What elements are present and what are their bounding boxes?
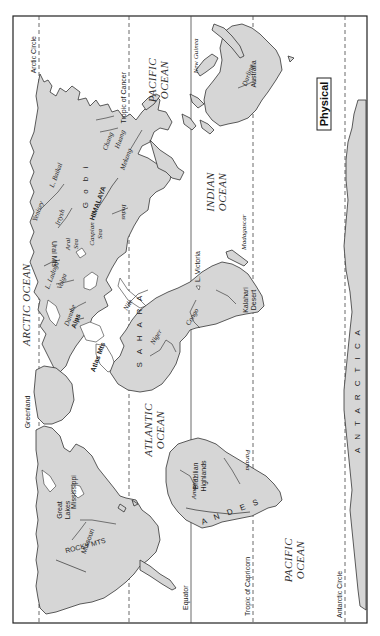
madagascar-label: Madagascar <box>240 214 248 251</box>
antarctica-label: A N T A R C T I C A <box>353 327 362 453</box>
java <box>200 120 214 134</box>
antarctic-circle-label: Antarctic Circle <box>336 571 343 618</box>
equator-label: Equator <box>182 585 190 610</box>
black-sea <box>80 322 104 342</box>
arctic-ocean-label: ARCTIC OCEAN <box>20 263 32 347</box>
pacific-ocean-north-label-2: OCEAN <box>158 61 170 100</box>
physical-world-map: Arctic Circle Tropic of Cancer Equator T… <box>0 0 380 636</box>
tropic-of-cancer-label: Tropic of Cancer <box>120 71 128 123</box>
indonesia-islands <box>182 114 196 130</box>
pacific-ocean-south-label-1: PACIFIC <box>282 538 294 583</box>
greenland <box>34 366 74 424</box>
tropic-of-capricorn-label: Tropic of Capricorn <box>244 557 252 616</box>
greenland-label: Greenland <box>24 396 31 429</box>
lake-victoria-label: L. Victoria <box>194 251 201 282</box>
aral-sea-label-1: Aral <box>64 238 72 252</box>
parana-label: Parana <box>244 449 252 472</box>
gobi-label: G o b i <box>81 164 90 209</box>
mississippi-label: Mississippi <box>70 475 78 509</box>
new-guinea-label: New Guinea <box>192 38 200 74</box>
central-america <box>140 560 176 590</box>
arctic-circle-label: Arctic Circle <box>30 36 37 73</box>
tasmania <box>288 56 294 62</box>
brazilian-highlands-label-2: Highlands <box>200 460 208 492</box>
map-title: Physical <box>318 82 330 127</box>
kalahari-desert-label-1: Kalahari <box>242 287 249 313</box>
aral-sea-label-2: Sea <box>72 238 80 249</box>
physical-title-badge: Physical <box>317 78 331 130</box>
sahara-label: S A H A R A <box>135 293 144 368</box>
borneo <box>190 94 204 108</box>
atlantic-ocean-label-1: ATLANTIC <box>142 403 154 458</box>
caspian-sea-label-1: Caspian <box>88 222 96 246</box>
caspian-sea-label-2: Sea <box>96 228 104 239</box>
great-lakes-label-1: Great <box>56 501 63 519</box>
pacific-ocean-south-label-2: OCEAN <box>294 541 306 580</box>
ural-mountains-label: Ural Mts <box>51 241 58 268</box>
indian-ocean-label-2: OCEAN <box>216 173 228 212</box>
africa-landmass <box>110 262 264 392</box>
indus-label: Indus <box>120 203 128 220</box>
amazon-label: Amazon <box>190 476 198 500</box>
atlantic-ocean-label-2: OCEAN <box>154 411 166 450</box>
kalahari-desert-label-2: Desert <box>250 290 257 311</box>
pacific-ocean-north-label-1: PACIFIC <box>146 58 158 103</box>
indian-ocean-label-1: INDIAN <box>204 172 216 213</box>
